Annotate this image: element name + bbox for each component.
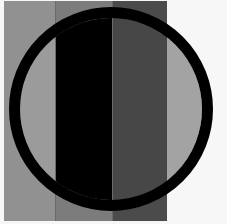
- illusion-figure: Circle over vertical gray stripes (light…: [0, 0, 227, 224]
- illusion-canvas: [0, 0, 227, 224]
